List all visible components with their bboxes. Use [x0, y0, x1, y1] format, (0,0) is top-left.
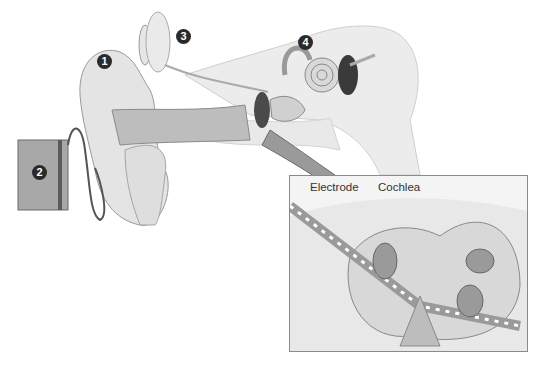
cochlea-label: Cochlea — [378, 181, 420, 193]
electrode-label: Electrode — [310, 181, 359, 193]
marker-badge-1: 1 — [97, 54, 112, 69]
marker-badge-2: 2 — [32, 165, 47, 180]
marker-badge-3: 3 — [176, 29, 191, 44]
cochlea-cross-section — [290, 176, 527, 351]
ear-diagram: 1 2 3 4 Electrode Cochlea — [0, 0, 548, 365]
cochlea-inset: Electrode Cochlea — [289, 175, 528, 352]
marker-badge-4: 4 — [298, 35, 313, 50]
